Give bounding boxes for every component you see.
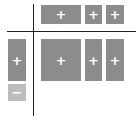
- plus-icon: +: [110, 54, 121, 67]
- cell-add-button-1[interactable]: +: [41, 39, 81, 81]
- cell-add-button-2[interactable]: +: [85, 39, 102, 81]
- plus-icon: +: [88, 54, 99, 67]
- add-column-button-3[interactable]: +: [106, 5, 124, 24]
- horizontal-divider[interactable]: [7, 31, 136, 32]
- remove-row-button[interactable]: −: [8, 84, 26, 101]
- plus-icon: +: [12, 54, 23, 67]
- plus-icon: +: [110, 8, 121, 21]
- plus-icon: +: [88, 8, 99, 21]
- add-column-button-2[interactable]: +: [85, 5, 102, 24]
- plus-icon: +: [56, 8, 67, 21]
- vertical-divider[interactable]: [33, 4, 34, 116]
- plus-icon: +: [56, 54, 67, 67]
- cell-add-button-3[interactable]: +: [106, 39, 124, 81]
- add-column-button-1[interactable]: +: [41, 5, 81, 24]
- minus-icon: −: [12, 86, 23, 99]
- add-row-button[interactable]: +: [8, 39, 26, 81]
